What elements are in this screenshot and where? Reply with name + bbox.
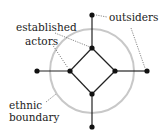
established-label-line2: actors [25,35,58,47]
node-inner-left [67,68,72,73]
outsiders-leader-top [96,15,107,17]
boundary-label-line2: boundary [9,111,60,123]
boundary-leader [46,94,56,102]
node-inner-top [89,45,94,50]
node-inner-bottom [89,91,94,96]
established-label-line1: established [16,21,77,33]
boundary-label-line1: ethnic [9,99,42,111]
node-outer-bottom [89,124,94,129]
node-outer-left [34,68,39,73]
node-outer-right [144,68,149,73]
node-inner-right [112,68,117,73]
established-leader-left [52,44,68,68]
outsiders-label: outsiders [109,11,158,23]
node-outer-top [89,12,94,17]
